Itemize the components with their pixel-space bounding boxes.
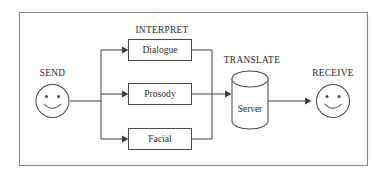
receive-label: RECEIVE	[312, 68, 354, 78]
outer-border	[20, 13, 368, 166]
smiley-eye-left-icon	[45, 95, 48, 98]
server-label: Server	[238, 104, 263, 114]
smiley-face-icon	[36, 85, 69, 118]
smiley-eye-left-icon	[326, 95, 329, 98]
process-box-dialogue[interactable]: Dialogue	[129, 40, 192, 61]
arrowhead-server-icon	[225, 91, 232, 98]
smiley-eye-right-icon	[338, 95, 341, 98]
smiley-face-icon	[317, 85, 350, 118]
smiley-eye-right-icon	[57, 95, 60, 98]
arrowhead-dialogue-icon	[122, 47, 128, 54]
send-endpoint	[36, 85, 69, 118]
prosody-box-label: Prosody	[144, 88, 176, 99]
server-cylinder-top	[232, 71, 268, 87]
dialogue-box-label: Dialogue	[142, 44, 177, 55]
arrowhead-receive-icon	[305, 98, 312, 105]
translate-group-label: TRANSLATE	[224, 55, 280, 65]
diagram-canvas: INTERPRET Dialogue Prosody Facial TRANSL…	[0, 0, 385, 180]
send-label: SEND	[40, 68, 66, 78]
process-box-prosody[interactable]: Prosody	[129, 84, 192, 105]
process-box-facial[interactable]: Facial	[129, 129, 192, 150]
facial-box-label: Facial	[148, 133, 172, 144]
pipeline-diagram: INTERPRET Dialogue Prosody Facial TRANSL…	[0, 0, 385, 180]
server-datastore[interactable]: Server	[232, 71, 268, 129]
arrowhead-facial-icon	[122, 136, 128, 143]
arrowhead-prosody-icon	[122, 91, 128, 98]
interpret-group-label: INTERPRET	[135, 25, 188, 35]
receive-endpoint	[317, 85, 350, 118]
